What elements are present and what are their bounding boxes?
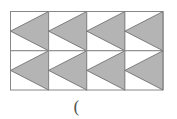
triangle-grid-diagram <box>0 0 177 119</box>
caption-paren: ( <box>73 99 80 116</box>
